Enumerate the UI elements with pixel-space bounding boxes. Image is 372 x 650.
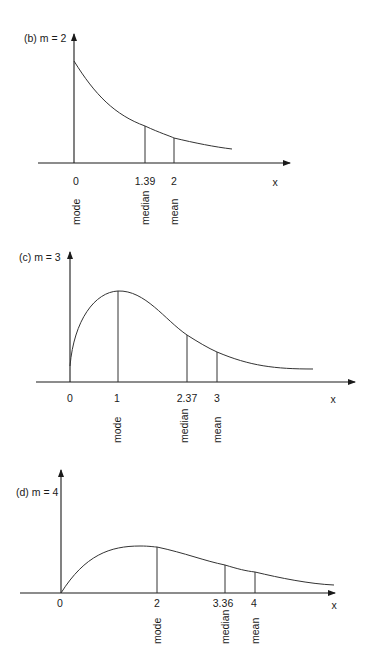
- panel-c: (c) m = 3 0 1 2.37 3 x mode median mean: [19, 251, 355, 443]
- panel-b-x-label: x: [272, 176, 278, 188]
- panel-d-tick-0: 0: [57, 597, 63, 609]
- panel-b-mode-label: mode: [70, 199, 82, 225]
- panel-d: (d) m = 4 0 2 3.36 4 x mode median mean: [16, 470, 337, 644]
- panel-c-mode-label: mode: [111, 417, 123, 443]
- chi-square-figure: (b) m = 2 0 1.39 2 x mode median mean (c…: [0, 0, 372, 650]
- panel-b-density-curve: [74, 61, 232, 149]
- panel-d-density-curve: [61, 546, 334, 593]
- panel-b: (b) m = 2 0 1.39 2 x mode median mean: [24, 32, 290, 225]
- panel-d-tick-mean: 4: [251, 597, 257, 609]
- panel-b-mean-label: mean: [168, 199, 180, 225]
- panel-b-median-label: median: [139, 190, 151, 225]
- panel-d-mean-label: mean: [249, 618, 261, 644]
- panel-d-tick-mode: 2: [154, 597, 160, 609]
- panel-c-median-label: median: [178, 408, 190, 443]
- panel-d-x-label: x: [331, 599, 337, 611]
- panel-b-tick-0: 0: [73, 175, 79, 187]
- panel-d-median-label: median: [219, 609, 231, 644]
- panel-c-tick-0: 0: [67, 392, 73, 404]
- panel-b-title: (b) m = 2: [24, 32, 66, 44]
- panel-b-tick-mean: 2: [171, 175, 177, 187]
- panel-c-density-curve: [70, 291, 313, 369]
- panel-c-tick-mean: 3: [214, 392, 220, 404]
- panel-c-title: (c) m = 3: [19, 251, 61, 263]
- panel-c-tick-mode: 1: [114, 392, 120, 404]
- panel-c-x-label: x: [330, 393, 336, 405]
- panel-b-tick-median: 1.39: [135, 175, 156, 187]
- panel-d-title: (d) m = 4: [16, 486, 58, 498]
- panel-d-mode-label: mode: [151, 618, 163, 644]
- panel-d-tick-median: 3.36: [213, 597, 234, 609]
- panel-c-mean-label: mean: [211, 417, 223, 443]
- panel-c-tick-median: 2.37: [177, 392, 198, 404]
